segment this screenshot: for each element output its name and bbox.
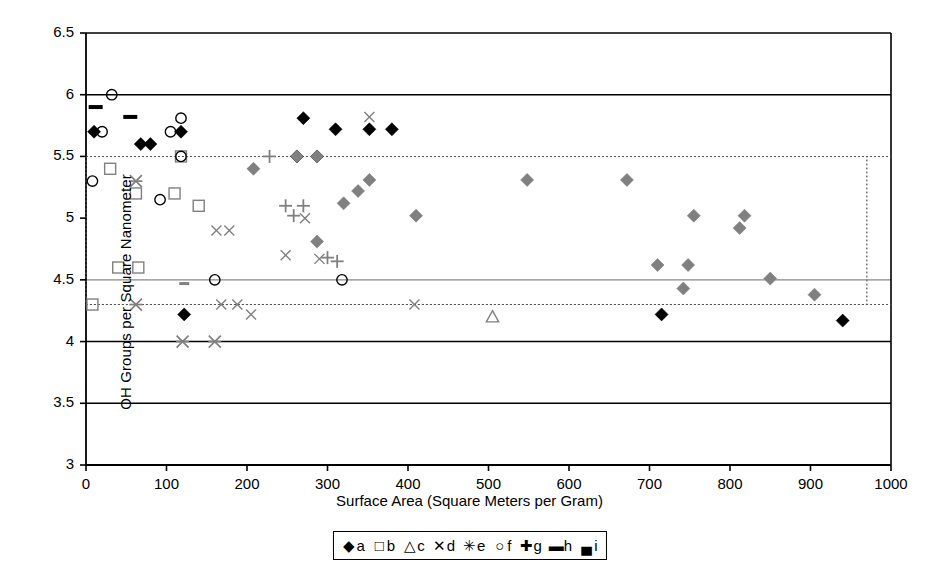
legend-entry-g: ✚g: [519, 535, 542, 556]
y-tick-label: 3.5: [34, 393, 74, 410]
legend-marker-icon-d: ✕: [432, 536, 447, 556]
legend-entry-i: ▄i: [579, 535, 597, 556]
x-tick-label: 0: [56, 475, 116, 492]
data-point-diamond: [521, 173, 534, 186]
y-tick-label: 5: [34, 208, 74, 225]
data-point-diamond: [329, 123, 342, 136]
data-point-diamond: [655, 308, 668, 321]
legend-entry-c: △c: [402, 535, 425, 556]
legend-marker-icon-c: △: [402, 536, 417, 556]
scatter-chart-figure: OH Groups per Square Nanometer Surface A…: [0, 0, 939, 583]
legend-entry-b: □b: [372, 535, 395, 556]
y-tick-label: 6.5: [34, 23, 74, 40]
data-point-circle: [155, 194, 165, 204]
data-point-diamond: [311, 235, 324, 248]
legend-marker-icon-i: ▄: [579, 536, 594, 556]
data-point-square: [133, 262, 144, 273]
y-axis-title: OH Groups per Square Nanometer: [117, 174, 134, 410]
data-point-diamond: [385, 123, 398, 136]
legend-label-g: g: [534, 537, 542, 554]
legend-marker-icon-h: ▬: [549, 536, 564, 556]
data-point-diamond: [290, 150, 303, 163]
data-point-circle: [176, 113, 186, 123]
x-tick-label: 200: [217, 475, 277, 492]
data-point-square: [169, 188, 180, 199]
legend-marker-icon-b: □: [372, 536, 387, 556]
legend-marker-icon-e: ✳: [462, 536, 477, 556]
data-point-diamond: [738, 209, 751, 222]
legend-entry-a: ◆a: [341, 535, 364, 556]
data-point-diamond: [352, 184, 365, 197]
legend-label-c: c: [417, 537, 425, 554]
legend-entry-f: ○f: [492, 535, 511, 556]
data-point-circle: [87, 176, 97, 186]
data-point-square: [87, 299, 98, 310]
data-point-diamond: [363, 123, 376, 136]
x-tick-label: 800: [700, 475, 760, 492]
legend-marker-icon-g: ✚: [519, 536, 534, 556]
chart-legend: ◆a□b△c✕d✳e○f✚g▬h▄i: [332, 531, 606, 560]
data-point-diamond: [733, 222, 746, 235]
data-point-diamond: [174, 125, 187, 138]
data-point-diamond: [687, 209, 700, 222]
data-point-diamond: [247, 162, 260, 175]
data-point-diamond: [297, 112, 310, 125]
data-point-diamond: [311, 150, 324, 163]
y-tick-label: 5.5: [34, 146, 74, 163]
data-point-dash: [123, 115, 137, 119]
data-point-diamond: [764, 272, 777, 285]
legend-marker-icon-f: ○: [492, 536, 507, 556]
legend-marker-icon-a: ◆: [341, 536, 356, 556]
x-tick-label: 100: [137, 475, 197, 492]
data-point-diamond: [808, 288, 821, 301]
y-tick-label: 4.5: [34, 270, 74, 287]
data-point-square: [193, 200, 204, 211]
x-tick-label: 400: [378, 475, 438, 492]
y-tick-label: 4: [34, 332, 74, 349]
data-point-diamond: [682, 259, 695, 272]
data-point-circle: [176, 151, 186, 161]
legend-label-a: a: [356, 537, 364, 554]
data-point-diamond: [144, 138, 157, 151]
data-point-triangle: [486, 311, 498, 322]
y-tick-label: 3: [34, 455, 74, 472]
x-tick-label: 500: [459, 475, 519, 492]
x-axis-title: Surface Area (Square Meters per Gram): [0, 492, 939, 509]
data-point-diamond: [363, 173, 376, 186]
legend-label-i: i: [594, 537, 597, 554]
data-point-diamond: [620, 173, 633, 186]
x-tick-label: 900: [781, 475, 841, 492]
data-point-dash-small: [179, 282, 189, 285]
legend-entry-d: ✕d: [432, 535, 455, 556]
y-tick-label: 6: [34, 85, 74, 102]
data-point-dash: [89, 105, 103, 109]
data-point-diamond: [410, 209, 423, 222]
data-point-diamond: [651, 259, 664, 272]
legend-entry-e: ✳e: [462, 535, 485, 556]
x-tick-label: 600: [539, 475, 599, 492]
x-tick-label: 1000: [861, 475, 921, 492]
legend-label-d: d: [447, 537, 455, 554]
data-point-diamond: [337, 197, 350, 210]
data-point-diamond: [836, 314, 849, 327]
x-tick-label: 300: [298, 475, 358, 492]
legend-label-e: e: [477, 537, 485, 554]
legend-label-f: f: [507, 537, 511, 554]
x-tick-label: 700: [620, 475, 680, 492]
legend-label-b: b: [387, 537, 395, 554]
reference-box: [86, 156, 867, 304]
legend-label-h: h: [564, 537, 572, 554]
data-point-diamond: [178, 308, 191, 321]
legend-entry-h: ▬h: [549, 535, 572, 556]
data-point-square: [105, 163, 116, 174]
data-point-diamond: [677, 282, 690, 295]
